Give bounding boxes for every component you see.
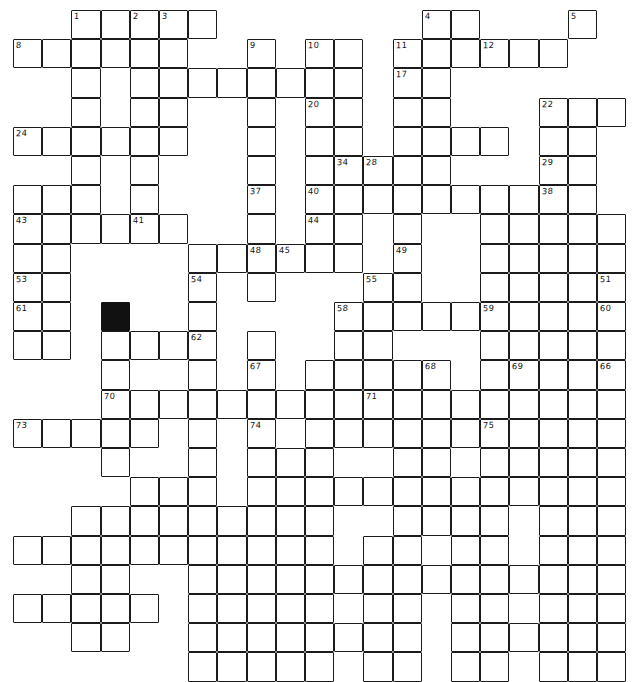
crossword-cell[interactable] xyxy=(568,127,597,156)
crossword-cell[interactable] xyxy=(568,302,597,331)
crossword-cell[interactable] xyxy=(305,68,334,97)
crossword-cell[interactable]: 60 xyxy=(597,302,626,331)
crossword-cell[interactable]: 11 xyxy=(393,39,422,68)
crossword-cell[interactable] xyxy=(276,594,305,623)
crossword-cell[interactable] xyxy=(159,68,188,97)
crossword-cell[interactable] xyxy=(480,390,509,419)
crossword-cell[interactable] xyxy=(509,244,538,273)
crossword-cell[interactable] xyxy=(568,98,597,127)
crossword-cell[interactable] xyxy=(480,244,509,273)
crossword-cell[interactable] xyxy=(276,448,305,477)
crossword-cell[interactable] xyxy=(509,273,538,302)
crossword-cell[interactable] xyxy=(597,448,626,477)
crossword-cell[interactable]: 44 xyxy=(305,214,334,243)
crossword-cell[interactable] xyxy=(130,68,159,97)
crossword-cell[interactable] xyxy=(71,68,100,97)
crossword-cell[interactable]: 66 xyxy=(597,360,626,389)
crossword-cell[interactable] xyxy=(509,214,538,243)
crossword-cell[interactable]: 43 xyxy=(13,214,42,243)
crossword-cell[interactable] xyxy=(568,331,597,360)
crossword-cell[interactable] xyxy=(217,244,246,273)
crossword-cell[interactable] xyxy=(188,68,217,97)
crossword-cell[interactable] xyxy=(247,623,276,652)
crossword-cell[interactable] xyxy=(393,273,422,302)
crossword-cell[interactable] xyxy=(217,68,246,97)
crossword-cell[interactable] xyxy=(393,360,422,389)
crossword-cell[interactable] xyxy=(305,565,334,594)
crossword-cell[interactable] xyxy=(422,127,451,156)
crossword-cell[interactable]: 17 xyxy=(393,68,422,97)
crossword-cell[interactable] xyxy=(188,448,217,477)
crossword-cell[interactable]: 12 xyxy=(480,39,509,68)
crossword-cell[interactable] xyxy=(71,39,100,68)
crossword-cell[interactable] xyxy=(509,185,538,214)
crossword-cell[interactable] xyxy=(393,652,422,681)
crossword-cell[interactable] xyxy=(71,565,100,594)
crossword-cell[interactable] xyxy=(451,39,480,68)
crossword-cell[interactable] xyxy=(422,506,451,535)
crossword-cell[interactable] xyxy=(393,506,422,535)
crossword-cell[interactable] xyxy=(539,273,568,302)
crossword-cell[interactable]: 40 xyxy=(305,185,334,214)
crossword-cell[interactable] xyxy=(217,623,246,652)
crossword-cell[interactable] xyxy=(539,360,568,389)
crossword-cell[interactable] xyxy=(597,331,626,360)
crossword-cell[interactable] xyxy=(568,390,597,419)
crossword-cell[interactable] xyxy=(509,331,538,360)
crossword-cell[interactable] xyxy=(539,477,568,506)
crossword-cell[interactable]: 5 xyxy=(568,10,597,39)
crossword-cell[interactable]: 69 xyxy=(509,360,538,389)
crossword-cell[interactable] xyxy=(422,448,451,477)
crossword-cell[interactable] xyxy=(393,156,422,185)
crossword-cell[interactable] xyxy=(509,390,538,419)
crossword-cell[interactable] xyxy=(568,214,597,243)
crossword-cell[interactable] xyxy=(597,477,626,506)
crossword-cell[interactable] xyxy=(188,477,217,506)
crossword-cell[interactable] xyxy=(539,623,568,652)
crossword-cell[interactable] xyxy=(568,623,597,652)
crossword-cell[interactable] xyxy=(597,390,626,419)
crossword-cell[interactable] xyxy=(539,39,568,68)
crossword-cell[interactable] xyxy=(363,594,392,623)
crossword-cell[interactable] xyxy=(188,536,217,565)
crossword-cell[interactable] xyxy=(159,214,188,243)
crossword-cell[interactable] xyxy=(451,506,480,535)
crossword-cell[interactable] xyxy=(539,565,568,594)
crossword-cell[interactable] xyxy=(101,623,130,652)
crossword-cell[interactable] xyxy=(130,156,159,185)
crossword-cell[interactable] xyxy=(188,10,217,39)
crossword-cell[interactable] xyxy=(13,244,42,273)
crossword-cell[interactable] xyxy=(568,652,597,681)
crossword-cell[interactable] xyxy=(539,536,568,565)
crossword-cell[interactable]: 9 xyxy=(247,39,276,68)
crossword-cell[interactable] xyxy=(247,156,276,185)
crossword-cell[interactable] xyxy=(130,98,159,127)
crossword-cell[interactable] xyxy=(451,565,480,594)
crossword-cell[interactable] xyxy=(451,536,480,565)
crossword-cell[interactable] xyxy=(247,273,276,302)
crossword-cell[interactable] xyxy=(130,185,159,214)
crossword-cell[interactable] xyxy=(334,565,363,594)
crossword-cell[interactable] xyxy=(509,448,538,477)
crossword-cell[interactable] xyxy=(247,536,276,565)
crossword-cell[interactable] xyxy=(101,506,130,535)
crossword-cell[interactable] xyxy=(597,652,626,681)
crossword-cell[interactable] xyxy=(305,477,334,506)
crossword-cell[interactable]: 51 xyxy=(597,273,626,302)
crossword-cell[interactable] xyxy=(334,68,363,97)
crossword-cell[interactable] xyxy=(509,623,538,652)
crossword-cell[interactable] xyxy=(217,565,246,594)
crossword-cell[interactable] xyxy=(422,390,451,419)
crossword-cell[interactable] xyxy=(247,214,276,243)
crossword-cell[interactable] xyxy=(130,390,159,419)
crossword-cell[interactable] xyxy=(247,98,276,127)
crossword-cell[interactable] xyxy=(422,185,451,214)
crossword-cell[interactable] xyxy=(188,652,217,681)
crossword-cell[interactable] xyxy=(539,390,568,419)
crossword-cell[interactable] xyxy=(130,594,159,623)
crossword-cell[interactable] xyxy=(334,185,363,214)
crossword-cell[interactable] xyxy=(305,419,334,448)
crossword-cell[interactable] xyxy=(71,156,100,185)
crossword-cell[interactable]: 67 xyxy=(247,360,276,389)
